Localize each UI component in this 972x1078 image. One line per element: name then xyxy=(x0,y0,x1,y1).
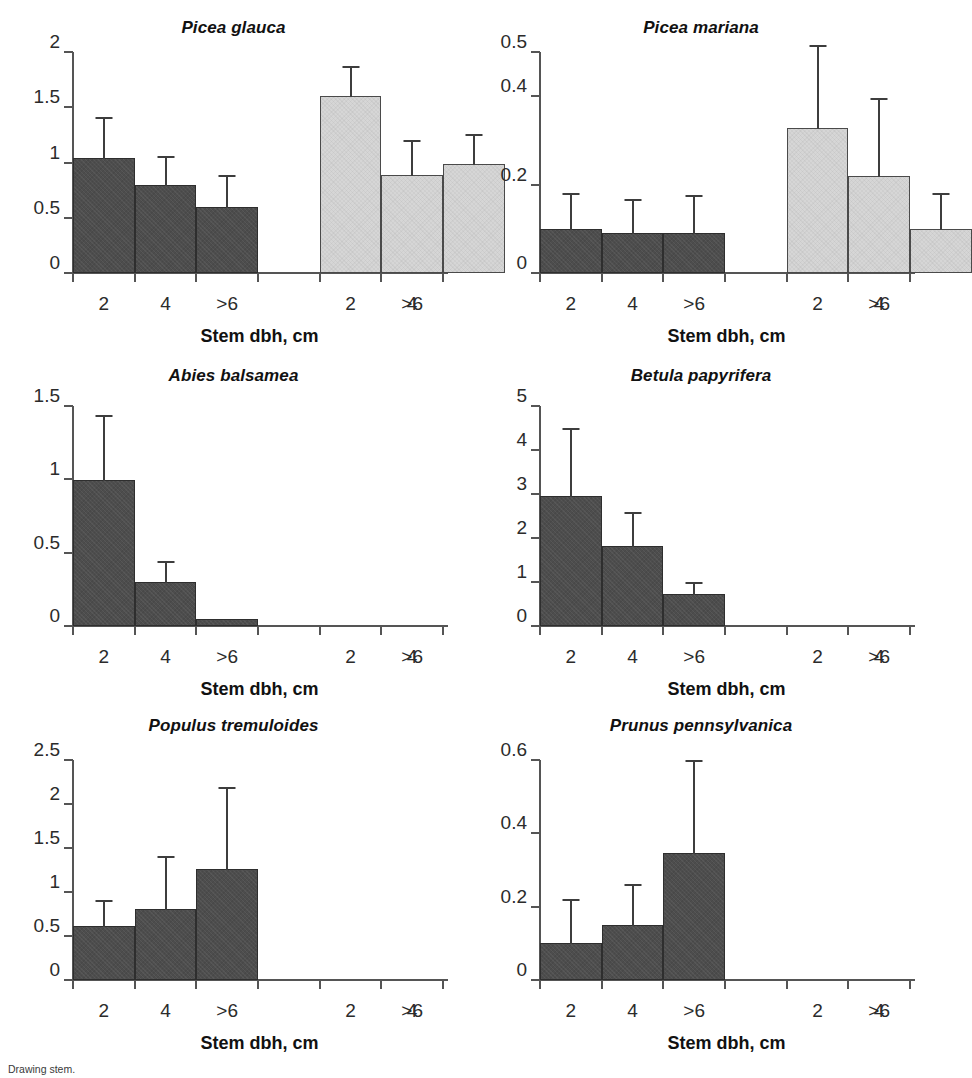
x-axis-tick xyxy=(601,273,603,282)
x-axis-tick xyxy=(72,626,74,635)
error-bar-cap xyxy=(95,117,112,119)
x-axis-tick xyxy=(72,273,74,282)
error-bar-cap xyxy=(157,561,174,563)
x-axis-tick-label: 2 xyxy=(345,1001,356,1020)
y-axis-tick-label: 5 xyxy=(516,386,527,405)
x-axis-title: Stem dbh, cm xyxy=(539,1033,914,1054)
x-axis-title: Stem dbh, cm xyxy=(539,326,914,347)
error-bar xyxy=(165,561,167,583)
bar xyxy=(135,185,197,273)
chart-panel: Populus tremuloides00.511.522.524>624>6S… xyxy=(0,698,467,1046)
error-bar-cap xyxy=(686,195,703,197)
y-axis-tick xyxy=(531,759,540,761)
y-axis-tick-label: 2 xyxy=(49,784,60,803)
x-axis-tick-label: 2 xyxy=(99,294,110,313)
y-axis-tick xyxy=(531,832,540,834)
x-axis-tick-label: >6 xyxy=(216,1001,238,1020)
x-axis-tick-label: >6 xyxy=(401,1001,423,1020)
error-bar xyxy=(411,140,413,175)
error-bar-cap xyxy=(624,512,641,514)
y-axis-tick xyxy=(531,537,540,539)
error-bar-cap xyxy=(95,900,112,902)
x-axis-tick-label: >6 xyxy=(683,294,705,313)
chart-panel: Picea mariana00.20.40.524>624>6Stem dbh,… xyxy=(467,0,935,348)
bar xyxy=(787,128,849,273)
x-axis-tick-label: 2 xyxy=(345,294,356,313)
error-bar-cap xyxy=(95,415,112,417)
y-axis-tick xyxy=(531,184,540,186)
y-axis-tick xyxy=(64,51,73,53)
x-axis-tick xyxy=(195,980,197,989)
y-axis-tick-label: 0.5 xyxy=(34,533,60,552)
bar xyxy=(540,943,602,980)
bar xyxy=(540,496,602,626)
x-axis-tick-label: 2 xyxy=(99,1001,110,1020)
error-bar-cap xyxy=(686,760,703,762)
bar xyxy=(320,96,382,273)
x-axis-tick xyxy=(724,273,726,282)
chart-panel: Betula papyrifera01234524>624>6Stem dbh,… xyxy=(467,348,935,698)
y-axis-tick xyxy=(64,847,73,849)
x-axis-tick xyxy=(380,980,382,989)
y-axis-tick-label: 2 xyxy=(49,32,60,51)
y-axis-tick-label: 0 xyxy=(516,606,527,625)
x-axis-tick xyxy=(319,273,321,282)
bar xyxy=(602,546,664,626)
y-axis-tick xyxy=(64,106,73,108)
panel-title: Abies balsamea xyxy=(0,366,467,386)
error-bar xyxy=(940,193,942,229)
x-axis-tick xyxy=(909,273,911,282)
x-axis-tick-label: 2 xyxy=(566,294,577,313)
x-axis-tick xyxy=(662,626,664,635)
x-axis-tick xyxy=(257,273,259,282)
y-axis-tick xyxy=(64,891,73,893)
panel-title: Populus tremuloides xyxy=(0,716,467,736)
x-axis-tick xyxy=(319,980,321,989)
y-axis-tick xyxy=(531,95,540,97)
error-bar xyxy=(103,117,105,159)
x-axis-tick xyxy=(601,980,603,989)
chart-panel: Abies balsamea00.511.524>624>6Stem dbh, … xyxy=(0,348,467,698)
plot-area: 00.20.40.524>624>6Stem dbh, cm xyxy=(540,52,910,273)
y-axis-tick xyxy=(64,162,73,164)
x-axis-tick xyxy=(847,273,849,282)
y-axis-tick-label: 1 xyxy=(49,459,60,478)
error-bar xyxy=(878,98,880,177)
y-axis-tick xyxy=(64,803,73,805)
y-axis-tick xyxy=(64,405,73,407)
error-bar-cap xyxy=(157,156,174,158)
bar xyxy=(73,926,135,980)
error-bar-cap xyxy=(562,193,579,195)
y-axis-tick xyxy=(531,581,540,583)
y-axis-tick-label: 0.5 xyxy=(34,198,60,217)
y-axis-tick-label: 3 xyxy=(516,474,527,493)
x-axis-tick-label: 4 xyxy=(627,294,638,313)
x-axis-tick xyxy=(724,980,726,989)
panel-title: Betula papyrifera xyxy=(467,366,935,386)
bar xyxy=(602,925,664,980)
y-axis-tick-label: 1.5 xyxy=(34,386,60,405)
y-axis-tick-label: 0 xyxy=(516,253,527,272)
y-axis-tick xyxy=(64,478,73,480)
y-axis-tick-label: 0.5 xyxy=(34,916,60,935)
x-axis-tick-label: >6 xyxy=(401,294,423,313)
y-axis-tick xyxy=(64,759,73,761)
x-axis-tick xyxy=(786,273,788,282)
x-axis-tick xyxy=(134,980,136,989)
error-bar xyxy=(226,787,228,870)
error-bar xyxy=(693,582,695,596)
x-axis-tick xyxy=(442,626,444,635)
x-axis-tick xyxy=(257,626,259,635)
x-axis-tick-label: >6 xyxy=(683,647,705,666)
y-axis-tick-label: 0.2 xyxy=(501,887,527,906)
error-bar xyxy=(350,66,352,97)
error-bar-cap xyxy=(686,582,703,584)
bar xyxy=(196,869,258,980)
x-axis-tick-label: 2 xyxy=(812,1001,823,1020)
bar xyxy=(135,909,197,980)
y-axis-tick-label: 0.5 xyxy=(501,32,527,51)
y-axis-tick xyxy=(531,493,540,495)
x-axis-tick-label: >6 xyxy=(868,647,890,666)
error-bar xyxy=(632,884,634,926)
